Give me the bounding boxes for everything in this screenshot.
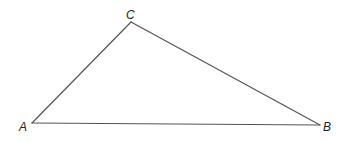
side-ca xyxy=(32,22,131,123)
triangle-svg: ABC xyxy=(0,0,349,142)
triangle-diagram: ABC xyxy=(0,0,349,142)
side-ab xyxy=(32,123,320,125)
vertex-label-b: B xyxy=(323,120,331,134)
triangle-sides xyxy=(32,22,320,125)
side-bc xyxy=(131,22,320,125)
vertex-labels: ABC xyxy=(18,8,331,134)
vertex-label-c: C xyxy=(126,8,135,22)
vertex-label-a: A xyxy=(18,120,27,134)
